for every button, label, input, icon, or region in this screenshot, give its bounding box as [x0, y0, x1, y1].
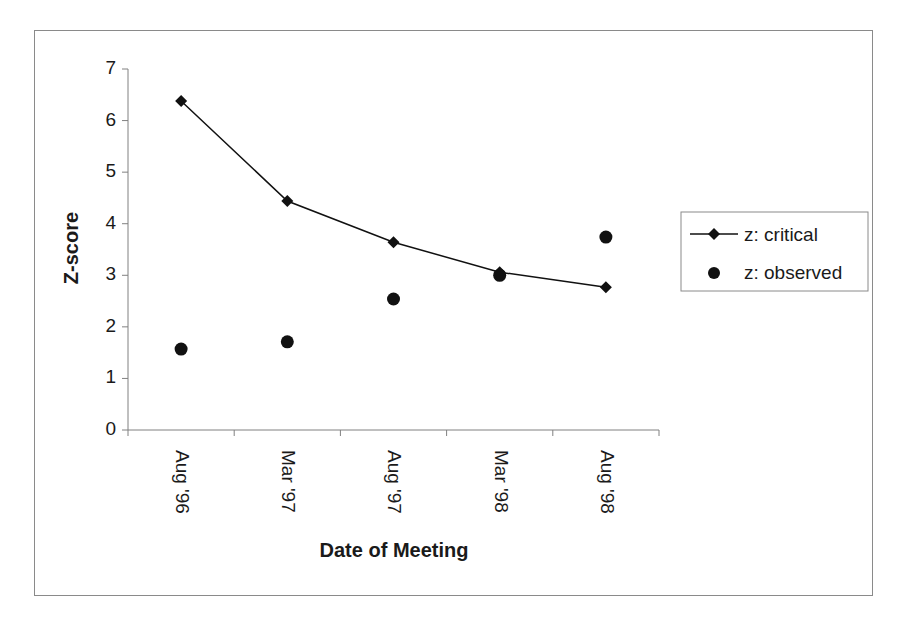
x-tick-label: Mar '97	[278, 450, 299, 513]
axes	[128, 69, 659, 430]
x-axis-ticks: Aug '96Mar '97Aug '97Mar '98Aug '98	[128, 430, 659, 514]
circle-marker-icon	[599, 231, 612, 244]
x-tick-label: Mar '98	[491, 450, 512, 513]
y-axis-title: Z-score	[60, 212, 82, 284]
chart-plot: 01234567 Aug '96Mar '97Aug '97Mar '98Aug…	[0, 0, 908, 622]
circle-marker-icon	[708, 267, 720, 279]
y-tick-label: 0	[105, 418, 116, 439]
circle-marker-icon	[387, 293, 400, 306]
x-tick-label: Aug '97	[384, 450, 405, 514]
y-tick-label: 4	[105, 212, 116, 233]
circle-marker-icon	[493, 269, 506, 282]
y-tick-label: 2	[105, 315, 116, 336]
diamond-marker-icon	[388, 236, 400, 248]
x-tick-label: Aug '96	[172, 450, 193, 514]
y-tick-label: 3	[105, 263, 116, 284]
y-tick-label: 5	[105, 160, 116, 181]
y-tick-label: 1	[105, 366, 116, 387]
series-z-observed	[175, 231, 613, 356]
circle-marker-icon	[281, 335, 294, 348]
circle-marker-icon	[175, 343, 188, 356]
x-tick-label: Aug '98	[597, 450, 618, 514]
critical-line	[181, 101, 606, 287]
y-axis-ticks: 01234567	[105, 57, 128, 439]
x-axis-title: Date of Meeting	[320, 539, 469, 561]
legend: z: critical z: observed	[681, 212, 868, 291]
legend-label-critical: z: critical	[744, 224, 818, 245]
series-z-critical	[175, 95, 612, 293]
diamond-marker-icon	[600, 281, 612, 293]
legend-label-observed: z: observed	[744, 262, 842, 283]
y-tick-label: 6	[105, 109, 116, 130]
y-tick-label: 7	[105, 57, 116, 78]
